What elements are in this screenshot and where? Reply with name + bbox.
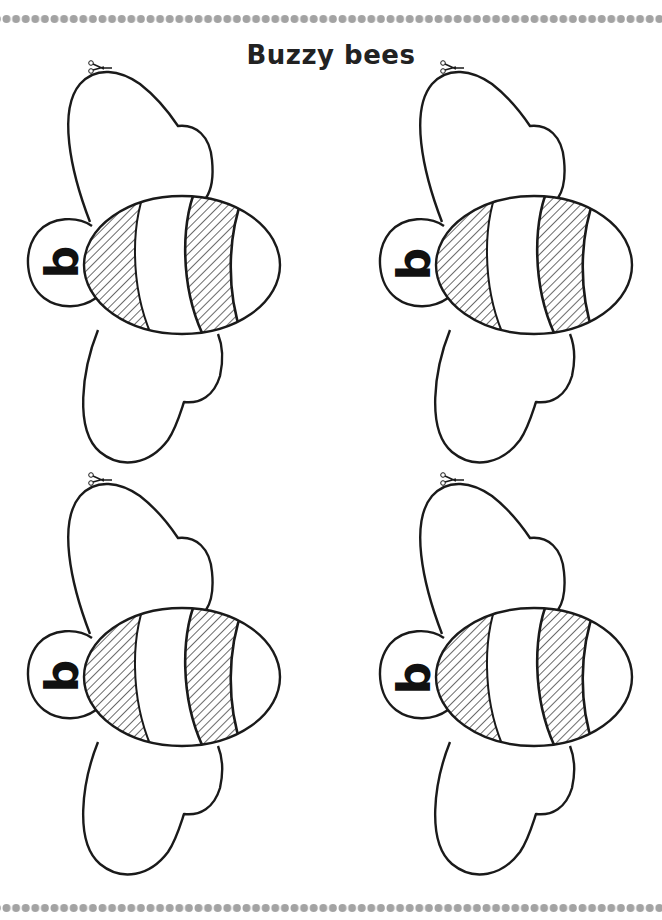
bee-top-right: b — [380, 61, 632, 463]
letter-b-bottom-right: b — [387, 662, 441, 695]
bee-top-left: b — [28, 61, 280, 463]
bee-sheet: b b b b — [0, 0, 662, 920]
bottom-dotted-border — [0, 903, 662, 913]
letter-b-bottom-left: b — [35, 660, 89, 693]
bee-bottom-left: b — [28, 473, 280, 875]
bee-bottom-right: b — [380, 473, 632, 875]
letter-b-top-left: b — [35, 246, 89, 279]
letter-b-top-right: b — [387, 248, 441, 281]
